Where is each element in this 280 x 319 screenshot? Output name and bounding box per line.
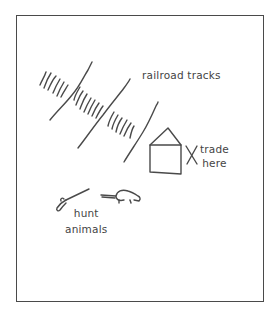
hunt-label-line2: animals: [65, 221, 107, 237]
x-marker-icon: [186, 146, 197, 164]
house-icon: [150, 128, 181, 174]
trade-here-label: trade here: [200, 142, 229, 170]
trade-label-line1: trade: [200, 142, 229, 156]
hunt-label-line1: hunt: [65, 205, 107, 221]
sketch-drawing: [0, 0, 280, 319]
hunt-animals-label: hunt animals: [65, 205, 107, 237]
railroad-tracks-icon: [40, 62, 158, 162]
railroad-tracks-label: railroad tracks: [142, 69, 221, 82]
trade-label-line2: here: [200, 156, 229, 170]
animal-icon: [101, 190, 140, 203]
